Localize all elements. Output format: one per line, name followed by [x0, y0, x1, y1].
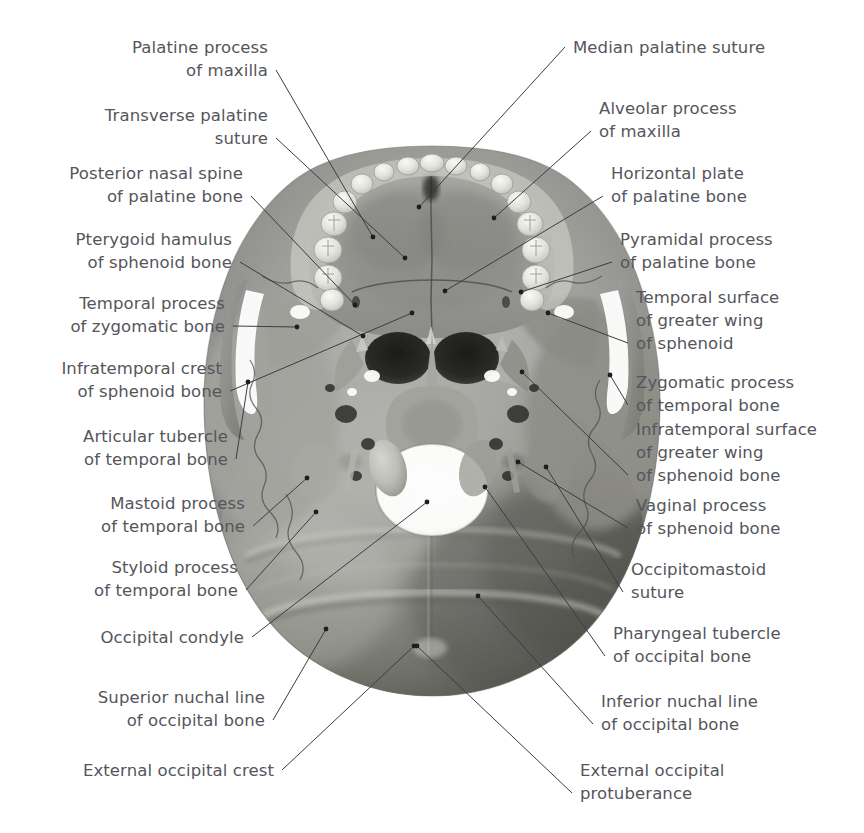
- label-line: Temporal surface: [636, 286, 779, 309]
- label-pharyngeal-tubercle-of-occipital-bone: Pharyngeal tubercleof occipital bone: [613, 622, 781, 668]
- label-line: Posterior nasal spine: [69, 162, 243, 185]
- label-line: Pyramidal process: [620, 228, 773, 251]
- label-line: Infratemporal crest: [61, 357, 222, 380]
- label-line: Horizontal plate: [611, 162, 747, 185]
- label-palatine-process-of-maxilla: Palatine processof maxilla: [132, 36, 268, 82]
- label-line: of sphenoid: [636, 332, 779, 355]
- label-occipitomastoid-suture: Occipitomastoidsuture: [631, 558, 766, 604]
- label-line: Transverse palatine: [105, 104, 268, 127]
- label-external-occipital-crest: External occipital crest: [83, 759, 274, 782]
- label-articular-tubercle-of-temporal-bone: Articular tubercleof temporal bone: [83, 425, 228, 471]
- label-line: of sphenoid bone: [76, 251, 232, 274]
- label-line: of temporal bone: [636, 394, 794, 417]
- label-line: of sphenoid bone: [61, 380, 222, 403]
- label-line: Zygomatic process: [636, 371, 794, 394]
- label-horizontal-plate-of-palatine-bone: Horizontal plateof palatine bone: [611, 162, 747, 208]
- label-external-occipital-protuberance: External occipitalprotuberance: [580, 759, 725, 805]
- label-line: of palatine bone: [620, 251, 773, 274]
- label-temporal-surface-of-greater-wing-of-sphenoid: Temporal surfaceof greater wingof spheno…: [636, 286, 779, 355]
- label-infratemporal-crest-of-sphenoid-bone: Infratemporal crestof sphenoid bone: [61, 357, 222, 403]
- label-line: Vaginal process: [636, 494, 780, 517]
- label-line: of zygomatic bone: [70, 315, 225, 338]
- label-infratemporal-surface-of-greater-wing-of-sphenoid-bone: Infratemporal surfaceof greater wingof s…: [636, 418, 817, 487]
- label-line: Occipital condyle: [101, 626, 244, 649]
- label-line: Articular tubercle: [83, 425, 228, 448]
- label-posterior-nasal-spine-of-palatine-bone: Posterior nasal spineof palatine bone: [69, 162, 243, 208]
- label-line: Median palatine suture: [573, 36, 765, 59]
- label-line: of palatine bone: [69, 185, 243, 208]
- label-line: suture: [105, 127, 268, 150]
- label-line: External occipital crest: [83, 759, 274, 782]
- label-zygomatic-process-of-temporal-bone: Zygomatic processof temporal bone: [636, 371, 794, 417]
- label-line: of occipital bone: [613, 645, 781, 668]
- label-line: of greater wing: [636, 441, 817, 464]
- label-line: Palatine process: [132, 36, 268, 59]
- label-line: of occipital bone: [601, 713, 758, 736]
- label-line: of sphenoid bone: [636, 464, 817, 487]
- label-pterygoid-hamulus-of-sphenoid-bone: Pterygoid hamulusof sphenoid bone: [76, 228, 232, 274]
- label-line: Styloid process: [94, 556, 238, 579]
- label-line: of occipital bone: [98, 709, 265, 732]
- label-line: suture: [631, 581, 766, 604]
- label-line: protuberance: [580, 782, 725, 805]
- label-line: Temporal process: [70, 292, 225, 315]
- label-temporal-process-of-zygomatic-bone: Temporal processof zygomatic bone: [70, 292, 225, 338]
- label-line: of sphenoid bone: [636, 517, 780, 540]
- label-line: of temporal bone: [94, 579, 238, 602]
- label-line: Superior nuchal line: [98, 686, 265, 709]
- label-mastoid-process-of-temporal-bone: Mastoid processof temporal bone: [101, 492, 245, 538]
- label-line: Inferior nuchal line: [601, 690, 758, 713]
- anatomical-plate: Palatine processof maxillaTransverse pal…: [0, 0, 864, 833]
- label-line: of temporal bone: [101, 515, 245, 538]
- label-line: of temporal bone: [83, 448, 228, 471]
- label-line: Mastoid process: [101, 492, 245, 515]
- label-alveolar-process-of-maxilla: Alveolar processof maxilla: [599, 97, 737, 143]
- label-occipital-condyle: Occipital condyle: [101, 626, 244, 649]
- label-inferior-nuchal-line-of-occipital-bone: Inferior nuchal lineof occipital bone: [601, 690, 758, 736]
- label-vaginal-process-of-sphenoid-bone: Vaginal processof sphenoid bone: [636, 494, 780, 540]
- label-line: Pharyngeal tubercle: [613, 622, 781, 645]
- skull-base-mass: [190, 130, 680, 710]
- label-line: Alveolar process: [599, 97, 737, 120]
- label-line: of maxilla: [599, 120, 737, 143]
- label-line: Occipitomastoid: [631, 558, 766, 581]
- label-line: Pterygoid hamulus: [76, 228, 232, 251]
- label-superior-nuchal-line-of-occipital-bone: Superior nuchal lineof occipital bone: [98, 686, 265, 732]
- label-line: of palatine bone: [611, 185, 747, 208]
- label-line: External occipital: [580, 759, 725, 782]
- label-median-palatine-suture: Median palatine suture: [573, 36, 765, 59]
- label-styloid-process-of-temporal-bone: Styloid processof temporal bone: [94, 556, 238, 602]
- label-line: of greater wing: [636, 309, 779, 332]
- label-line: Infratemporal surface: [636, 418, 817, 441]
- label-transverse-palatine-suture: Transverse palatinesuture: [105, 104, 268, 150]
- label-pyramidal-process-of-palatine-bone: Pyramidal processof palatine bone: [620, 228, 773, 274]
- label-line: of maxilla: [132, 59, 268, 82]
